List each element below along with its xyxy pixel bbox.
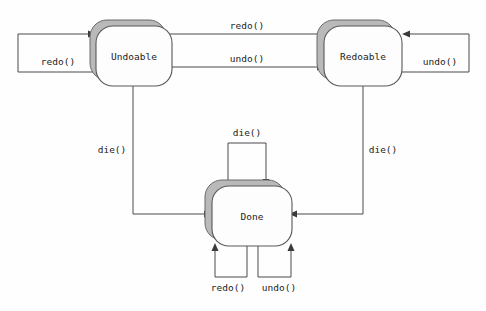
- edge-redoable-to-undoable: [159, 31, 330, 38]
- arrow-head-done-self-undo: [288, 243, 295, 251]
- edge-label-undoable-self-redo: redo(): [41, 56, 75, 67]
- edge-line-done-self-undo: [258, 244, 291, 277]
- state-done-label: Done: [241, 211, 264, 222]
- edge-label-done-self-redo: redo(): [211, 282, 245, 293]
- edge-label-undoable-to-done: die(): [98, 144, 127, 155]
- edge-label-redoable-to-undoable: redo(): [230, 20, 264, 31]
- edge-line-done-self-redo: [215, 244, 247, 277]
- edge-label-redoable-to-done: die(): [369, 144, 398, 155]
- edge-undoable-to-redoable: [160, 64, 325, 71]
- edge-label-done-self-die: die(): [233, 127, 262, 138]
- state-redoable[interactable]: Redoable: [317, 20, 402, 86]
- state-undoable-label: Undoable: [111, 51, 157, 62]
- edge-done-self-redo: [212, 243, 248, 277]
- edge-label-redoable-self-undo: undo(): [423, 56, 457, 67]
- state-done[interactable]: Done: [205, 180, 292, 246]
- edge-redoable-to-done: [289, 85, 363, 218]
- arrow-head-done-self-redo: [212, 243, 219, 251]
- edge-done-self-undo: [258, 243, 295, 277]
- edge-label-done-self-undo: undo(): [262, 282, 296, 293]
- state-diagram-canvas: Undoable Redoable Done redo() redo() und…: [0, 0, 486, 311]
- edge-line-undoable-to-done: [133, 85, 204, 214]
- arrow-head-redoable-self-undo: [402, 31, 410, 38]
- state-undoable[interactable]: Undoable: [90, 20, 172, 86]
- state-redoable-label: Redoable: [340, 51, 386, 62]
- edge-line-redoable-to-done: [297, 85, 363, 214]
- edge-label-undoable-to-redoable: undo(): [230, 53, 264, 64]
- edge-undoable-to-done: [133, 85, 212, 218]
- state-diagram-svg: Undoable Redoable Done redo() redo() und…: [0, 0, 486, 311]
